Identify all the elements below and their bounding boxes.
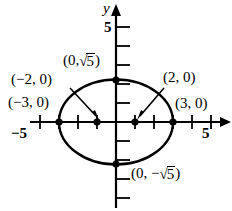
y-axis-arrowhead-icon [111,4,121,16]
leader-arrowhead-right-icon [137,110,144,120]
point-marker [131,118,138,125]
point-label-bottom: (0, −√5) [131,165,180,181]
coordinate-graph-figure: y 5 −5 5 (0,√5) (−2, 0) (−3, 0) (2, 0) (… [0,0,232,211]
x-axis-arrowhead-icon [220,117,231,127]
point-label-top-suffix: ) [95,52,100,68]
x-tick-label-5: 5 [202,126,210,141]
x-tick-label-neg5: −5 [11,126,27,141]
y-axis-ticks [116,27,130,198]
point-label-bottom-prefix: (0, − [131,166,159,181]
point-label-neg3: (−3, 0) [8,95,49,110]
leader-arrowhead-left-icon [92,110,99,120]
point-label-bottom-suffix: ) [175,165,180,181]
point-label-pos3: (3, 0) [175,96,208,111]
y-tick-label-5: 5 [104,20,112,35]
leader-line-left [70,88,96,116]
point-label-bottom-radicand: 5 [167,166,176,182]
point-label-pos2: (2, 0) [163,70,196,85]
point-label-neg2: (−2, 0) [11,72,52,87]
point-label-top-prefix: (0, [63,53,79,68]
point-label-top-radicand: 5 [86,53,95,69]
point-marker [93,118,100,125]
point-marker [169,118,176,125]
point-marker [55,118,62,125]
point-label-top: (0,√5) [63,52,100,68]
point-marker [112,160,119,167]
y-axis-label: y [103,1,110,16]
point-marker [112,76,119,83]
